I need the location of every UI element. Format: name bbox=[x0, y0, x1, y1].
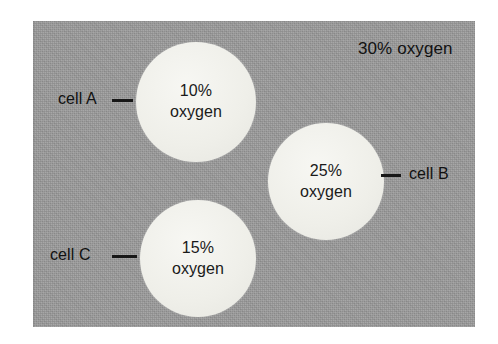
cell-c-label: cell C bbox=[50, 247, 91, 263]
cell-c-circle: 15% oxygen bbox=[140, 200, 256, 317]
cell-c-value-unit: oxygen bbox=[172, 259, 224, 280]
cell-b-value-unit: oxygen bbox=[300, 182, 352, 203]
cell-a-value-unit: oxygen bbox=[170, 102, 222, 123]
cell-b-circle: 25% oxygen bbox=[268, 123, 384, 240]
cell-a-label: cell A bbox=[58, 91, 97, 107]
cell-c-leader-line bbox=[112, 255, 137, 258]
cell-b-label: cell B bbox=[409, 166, 449, 182]
oxygen-diffusion-figure: 30% oxygen 10% oxygen cell A 25% oxygen … bbox=[0, 0, 498, 344]
extracellular-medium-panel: 30% oxygen 10% oxygen cell A 25% oxygen … bbox=[33, 21, 475, 327]
medium-concentration-label: 30% oxygen bbox=[358, 40, 453, 57]
cell-a-leader-line bbox=[112, 99, 133, 102]
cell-a-value-percent: 10% bbox=[180, 81, 212, 102]
cell-a-circle: 10% oxygen bbox=[136, 42, 256, 162]
cell-b-leader-line bbox=[381, 174, 401, 177]
cell-b-value-percent: 25% bbox=[310, 161, 342, 182]
cell-c-value-percent: 15% bbox=[182, 238, 214, 259]
